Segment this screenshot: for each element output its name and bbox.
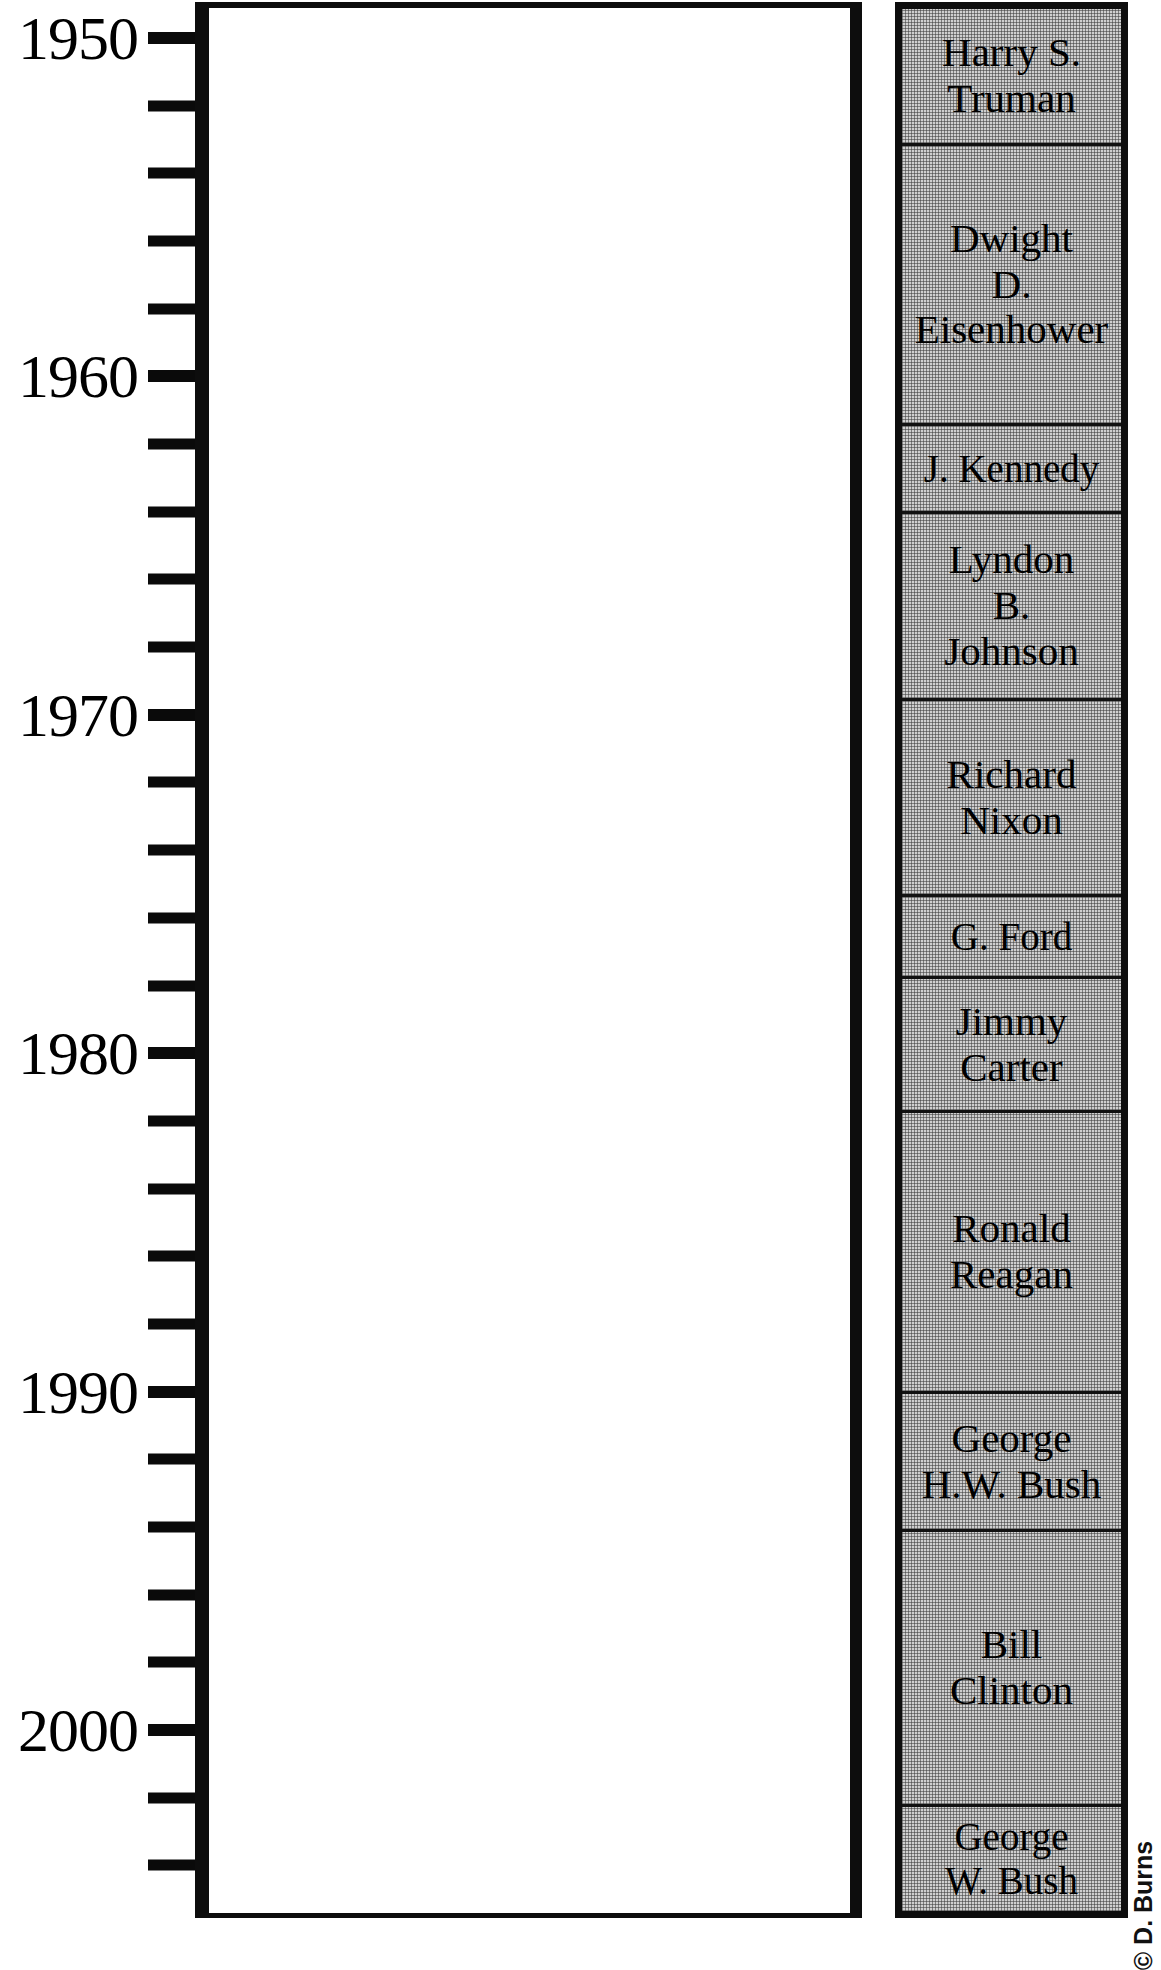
- tick-1952: [148, 100, 198, 111]
- tick-1976: [148, 912, 198, 923]
- tick-1994: [148, 1521, 198, 1532]
- year-label-1970: 1970: [18, 684, 138, 746]
- tick-1984: [148, 1183, 198, 1194]
- tick-1960: [148, 370, 200, 382]
- president-name: Dwight D. Eisenhower: [911, 216, 1113, 354]
- president-name: Harry S. Truman: [938, 30, 1085, 122]
- president-cell-dwight-d-eisenhower: Dwight D. Eisenhower: [902, 146, 1121, 426]
- tick-1950: [148, 32, 200, 44]
- president-cell-j-kennedy: J. Kennedy: [902, 426, 1121, 514]
- year-label-1950: 1950: [18, 7, 138, 69]
- year-label-1990: 1990: [18, 1361, 138, 1423]
- president-name: Ronald Reagan: [946, 1206, 1077, 1298]
- year-label-2000: 2000: [18, 1699, 138, 1761]
- president-name: Richard Nixon: [943, 752, 1081, 844]
- president-cell-george-w-bush: George W. Bush: [902, 1807, 1121, 1911]
- president-name: Lyndon B. Johnson: [940, 537, 1082, 675]
- tick-2002: [148, 1792, 198, 1803]
- president-cell-harry-s-truman: Harry S. Truman: [902, 9, 1121, 146]
- tick-1954: [148, 168, 198, 179]
- tick-1998: [148, 1657, 198, 1668]
- presidents-column: Harry S. TrumanDwight D. EisenhowerJ. Ke…: [895, 2, 1128, 1918]
- tick-1956: [148, 236, 198, 247]
- president-cell-bill-clinton: Bill Clinton: [902, 1532, 1121, 1807]
- tick-1972: [148, 777, 198, 788]
- tick-1968: [148, 642, 198, 653]
- tick-1990: [148, 1386, 200, 1398]
- tick-1958: [148, 303, 198, 314]
- tick-2004: [148, 1860, 198, 1871]
- president-cell-lyndon-b-johnson: Lyndon B. Johnson: [902, 514, 1121, 701]
- president-cell-richard-nixon: Richard Nixon: [902, 701, 1121, 897]
- year-axis: 195019601970198019902000: [0, 0, 200, 1924]
- president-cell-g-ford: G. Ford: [902, 897, 1121, 979]
- tick-2000: [148, 1724, 200, 1736]
- tick-1980: [148, 1047, 200, 1059]
- tick-1986: [148, 1251, 198, 1262]
- plot-frame: [195, 2, 862, 1918]
- tick-1962: [148, 439, 198, 450]
- president-cell-ronald-reagan: Ronald Reagan: [902, 1113, 1121, 1394]
- tick-1974: [148, 845, 198, 856]
- president-name: G. Ford: [947, 915, 1076, 959]
- president-name: George W. Bush: [941, 1815, 1082, 1902]
- tick-1992: [148, 1454, 198, 1465]
- president-name: Jimmy Carter: [952, 999, 1072, 1091]
- tick-1988: [148, 1318, 198, 1329]
- tick-1982: [148, 1115, 198, 1126]
- copyright-credit: © D. Burns: [1129, 1680, 1159, 1920]
- president-cell-jimmy-carter: Jimmy Carter: [902, 979, 1121, 1113]
- plot-area: [209, 8, 850, 1913]
- president-name: George H.W. Bush: [918, 1416, 1106, 1508]
- tick-1966: [148, 574, 198, 585]
- president-name: J. Kennedy: [920, 447, 1103, 491]
- tick-1978: [148, 980, 198, 991]
- year-label-1960: 1960: [18, 345, 138, 407]
- tick-1964: [148, 506, 198, 517]
- tick-1996: [148, 1589, 198, 1600]
- year-label-1980: 1980: [18, 1022, 138, 1084]
- president-name: Bill Clinton: [946, 1622, 1077, 1714]
- tick-1970: [148, 709, 200, 721]
- president-cell-george-h-w-bush: George H.W. Bush: [902, 1394, 1121, 1532]
- copyright-text: © D. Burns: [1130, 1841, 1159, 1970]
